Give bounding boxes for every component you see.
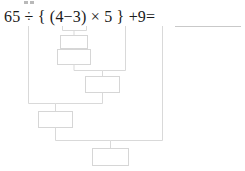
drop-line-from-4 <box>63 26 75 31</box>
math-expression: 65 ÷ { (4−3) × 5 } +9= <box>4 8 155 26</box>
connector-box2-to-junction <box>74 65 103 71</box>
connector-box3-to-junction <box>56 93 103 104</box>
step-box-2[interactable] <box>58 50 91 65</box>
connector-box4-to-junction <box>56 128 111 141</box>
worksheet-page: 65 ÷ { (4−3) × 5 } +9= <box>0 0 245 171</box>
drop-line-from-3 <box>74 26 87 31</box>
scan-speck <box>24 1 28 4</box>
step-box-4[interactable] <box>39 112 73 128</box>
step-box-3[interactable] <box>86 77 120 93</box>
step-box-1[interactable] <box>61 36 88 49</box>
step-box-5-final-answer[interactable] <box>93 149 129 166</box>
answer-blank-line[interactable] <box>175 26 241 27</box>
drop-line-from-9 <box>111 26 163 141</box>
scan-speck <box>30 1 34 4</box>
drop-line-from-5 <box>103 26 126 71</box>
drop-line-from-65 <box>29 26 56 104</box>
